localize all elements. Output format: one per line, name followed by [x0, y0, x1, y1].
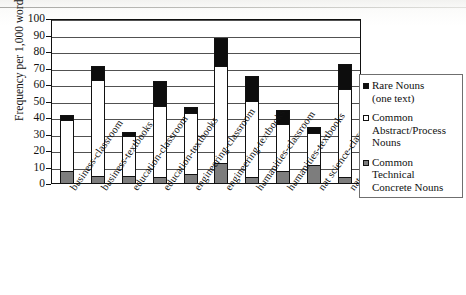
bar-segment-rare-nouns [215, 39, 227, 66]
legend-item-common-technical: CommonTechnicalConcrete Nouns [363, 156, 459, 194]
y-tick-label-10: 10 [34, 162, 46, 174]
y-tick-mark-0 [46, 184, 51, 185]
legend-label-common-abstract: CommonAbstract/ProcessNouns [372, 111, 446, 149]
legend-item-rare-nouns: Rare Nouns(one text) [363, 79, 459, 104]
legend-label-rare-nouns: Rare Nouns(one text) [372, 79, 424, 104]
y-tick-label-80: 80 [34, 46, 46, 58]
y-tick-label-100: 100 [28, 13, 45, 25]
page-top-rule [0, 7, 466, 8]
bar-segment-rare-nouns [246, 77, 258, 101]
x-axis-labels: business-classroombusiness-textbookseduc… [51, 186, 361, 291]
bar-segment-common-abstract [61, 120, 73, 172]
bar-slot [52, 20, 83, 183]
y-tick-label-50: 50 [34, 96, 46, 108]
y-tick-label-60: 60 [34, 79, 46, 91]
white-square-icon [363, 115, 369, 121]
y-axis: 1009080706050403020100 [0, 0, 51, 190]
bar-segment-rare-nouns [339, 65, 351, 89]
chart-legend: Rare Nouns(one text) CommonAbstract/Proc… [359, 74, 463, 198]
gray-square-icon [363, 160, 369, 166]
y-tick-label-70: 70 [34, 63, 46, 75]
y-tick-label-20: 20 [34, 145, 46, 157]
stacked-bar[interactable] [60, 115, 74, 183]
legend-label-common-technical: CommonTechnicalConcrete Nouns [372, 156, 443, 194]
y-tick-label-0: 0 [39, 178, 45, 190]
bar-segment-rare-nouns [92, 67, 104, 80]
y-tick-label-30: 30 [34, 129, 46, 141]
black-square-icon [363, 83, 369, 89]
legend-item-common-abstract: CommonAbstract/ProcessNouns [363, 111, 459, 149]
bar-segment-rare-nouns [154, 82, 166, 106]
y-tick-label-40: 40 [34, 112, 46, 124]
y-tick-label-90: 90 [34, 30, 46, 42]
